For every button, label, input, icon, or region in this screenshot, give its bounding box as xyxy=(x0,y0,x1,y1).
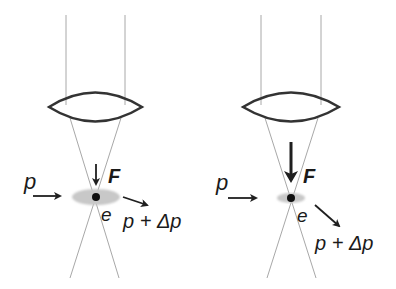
electron-label: e xyxy=(297,205,308,226)
momentum-out-label: p + Δp xyxy=(314,232,373,254)
panel-right: p F e p + Δp xyxy=(215,15,373,278)
force-label: F xyxy=(108,165,121,187)
electron-dot xyxy=(92,193,100,201)
momentum-out-label: p + Δp xyxy=(122,210,181,232)
panel-left: p F e p + Δp xyxy=(23,15,181,278)
force-label: F xyxy=(303,165,316,187)
momentum-in-label: p xyxy=(215,170,228,195)
electron-dot xyxy=(287,194,295,202)
diagram-canvas: p F e p + Δp p F e p + Δp xyxy=(0,0,396,289)
momentum-in-label: p xyxy=(23,169,36,194)
lens-icon xyxy=(49,93,142,122)
electron-label: e xyxy=(101,204,112,225)
lens-icon xyxy=(243,93,339,122)
outgoing-momentum-arrow xyxy=(123,197,147,205)
outgoing-momentum-arrow xyxy=(315,205,339,226)
